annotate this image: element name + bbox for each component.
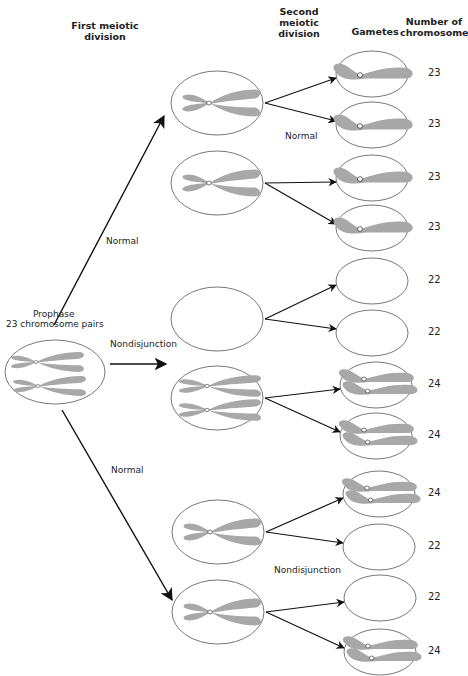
arrow-normal-upper	[54, 116, 164, 325]
first-division-cell-6	[172, 580, 264, 644]
gamete-cell-11	[344, 575, 416, 621]
first-division-cell-3	[171, 287, 263, 351]
chromosome-count-7: 24	[428, 378, 441, 389]
first-division-cell-2	[171, 151, 263, 215]
chromosome-count-4: 23	[428, 221, 441, 232]
gamete-cell-3	[334, 155, 413, 201]
arrow-to-gamete-6	[265, 319, 336, 329]
arrow-to-gamete-2	[265, 103, 336, 121]
chromosome-count-9: 24	[428, 487, 441, 498]
arrow-to-gamete-1	[265, 78, 336, 103]
label-nondisjunction-second: Nondisjunction	[274, 565, 341, 575]
gamete-cell-7	[339, 362, 418, 408]
header-second-division: Second meiotic division	[272, 6, 326, 39]
arrow-to-gamete-12	[266, 612, 344, 648]
gamete-cell-4	[334, 205, 413, 251]
header-number-of-chromosomes: Number of chromosomes	[400, 16, 468, 38]
prophase-subtitle: 23 chromosome pairs	[6, 319, 104, 329]
chromosome-count-12: 24	[428, 645, 441, 656]
prophase-title: Prophase	[33, 309, 74, 319]
chromosome-count-11: 22	[428, 591, 441, 602]
chromosome-count-10: 22	[428, 540, 441, 551]
chromosome-count-2: 23	[428, 118, 441, 129]
arrow-to-gamete-9	[266, 498, 343, 532]
arrow-to-gamete-3	[265, 182, 336, 183]
gamete-cell-6	[336, 310, 408, 356]
gamete-cell-1	[334, 51, 413, 97]
chromosome-count-6: 22	[428, 326, 441, 337]
prophase-cell	[5, 340, 105, 404]
arrow-to-gamete-10	[266, 532, 343, 543]
gamete-cell-12	[343, 629, 422, 675]
gamete-cell-10	[343, 524, 415, 570]
label-nondisjunction-first: Nondisjunction	[110, 339, 177, 349]
arrow-to-gamete-5	[265, 285, 336, 319]
arrow-to-gamete-7	[265, 389, 340, 398]
gamete-cell-8	[339, 413, 418, 459]
label-normal-upper: Normal	[106, 236, 139, 246]
arrow-normal-lower	[62, 410, 172, 600]
label-normal-second: Normal	[285, 131, 318, 141]
chromosome-count-3: 23	[428, 171, 441, 182]
label-normal-lower: Normal	[111, 465, 144, 475]
header-gametes: Gametes	[350, 26, 400, 37]
gamete-cell-5	[336, 258, 408, 304]
gamete-cell-2	[334, 102, 413, 148]
chromosome-count-8: 24	[428, 429, 441, 440]
first-division-cell-4	[171, 366, 263, 430]
first-division-cell-5	[172, 500, 264, 564]
chromosome-count-5: 22	[428, 274, 441, 285]
header-first-division: First meiotic division	[60, 20, 150, 42]
first-division-cell-1	[171, 71, 263, 135]
arrow-to-gamete-8	[265, 398, 340, 432]
arrow-to-gamete-4	[265, 183, 336, 224]
gamete-cell-9	[342, 471, 421, 517]
meiosis-nondisjunction-diagram	[0, 0, 468, 676]
chromosome-count-1: 23	[428, 67, 441, 78]
arrow-to-gamete-11	[266, 602, 344, 612]
